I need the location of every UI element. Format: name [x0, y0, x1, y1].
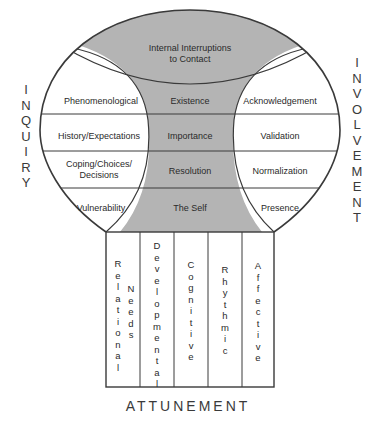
column-rhythmic: Rhythmic — [219, 264, 231, 356]
column-needs: Needs — [125, 283, 137, 341]
rhythmic-letter: R — [222, 264, 229, 276]
developmental-letter: e — [154, 332, 159, 344]
developmental-letter: p — [154, 309, 159, 321]
shaded-center-region — [60, 0, 320, 232]
developmental-letter: e — [154, 275, 159, 287]
affective-letter: e — [255, 295, 260, 307]
involvement-letter: O — [352, 102, 362, 118]
cognitive-letter: C — [188, 259, 195, 271]
rhythmic-letter: c — [223, 345, 228, 357]
relational-letter: l — [117, 362, 119, 374]
rhythmic-letter: m — [221, 322, 229, 334]
developmental-letter: a — [154, 367, 159, 379]
row4-right: Presence — [232, 203, 328, 214]
developmental-letter: n — [154, 344, 159, 356]
relational-letter: a — [115, 293, 120, 305]
column-developmental: Developmental — [151, 240, 163, 390]
row2-left: History/Expectations — [48, 131, 150, 142]
rhythmic-letter: h — [222, 310, 227, 322]
developmental-letter: e — [154, 252, 159, 264]
needs-letter: d — [128, 318, 133, 330]
needs-letter: e — [128, 295, 133, 307]
row3-left: Coping/Choices/ Decisions — [48, 159, 150, 181]
affective-letter: t — [257, 318, 260, 330]
row4-center: The Self — [150, 203, 230, 214]
affective-letter: f — [257, 283, 260, 295]
inquiry-letter: I — [24, 144, 28, 160]
involvement-letter: V — [353, 133, 362, 149]
cognitive-letter: i — [190, 305, 192, 317]
involvement-letter: T — [353, 210, 361, 226]
rhythmic-letter: h — [222, 276, 227, 288]
rhythmic-letter: i — [224, 333, 226, 345]
affective-letter: v — [256, 341, 261, 353]
cognitive-letter: o — [188, 271, 193, 283]
needs-letter: s — [129, 329, 134, 341]
row1-left: Phenomenological — [55, 96, 147, 107]
relational-letter: a — [115, 350, 120, 362]
row2-right: Validation — [232, 131, 328, 142]
column-affective: Affective — [252, 260, 264, 364]
relational-letter: o — [115, 327, 120, 339]
affective-letter: i — [257, 329, 259, 341]
cognitive-letter: g — [188, 282, 193, 294]
involvement-label: INVOLVEMENT — [349, 55, 365, 226]
affective-letter: f — [257, 272, 260, 284]
row2-center: Importance — [150, 131, 230, 142]
row3-left-line1: Coping/Choices/ — [48, 159, 150, 170]
row4-left: Vulnerability — [55, 203, 147, 214]
involvement-letter: N — [352, 195, 361, 211]
top-region-label: Internal Interruptions to Contact — [140, 43, 240, 65]
row1-right: Acknowledgement — [232, 96, 328, 107]
affective-letter: c — [256, 306, 261, 318]
cognitive-letter: t — [190, 317, 193, 329]
cognitive-letter: v — [189, 340, 194, 352]
developmental-letter: l — [156, 286, 158, 298]
involvement-letter: N — [352, 71, 361, 87]
row3-right: Normalization — [232, 166, 328, 177]
involvement-letter: V — [353, 86, 362, 102]
relational-letter: R — [115, 258, 122, 270]
attunement-label: ATTUNEMENT — [0, 398, 376, 414]
relational-letter: t — [117, 304, 120, 316]
involvement-letter: E — [353, 148, 362, 164]
developmental-letter: v — [155, 263, 160, 275]
developmental-letter: l — [156, 378, 158, 390]
relational-letter: i — [117, 316, 119, 328]
cognitive-letter: i — [190, 328, 192, 340]
top-region-line2: to Contact — [140, 54, 240, 65]
top-region-line1: Internal Interruptions — [140, 43, 240, 54]
affective-letter: e — [255, 352, 260, 364]
column-cognitive: Cognitive — [185, 259, 197, 363]
rhythmic-letter: y — [223, 287, 228, 299]
involvement-letter: E — [353, 179, 362, 195]
needs-letter: N — [128, 283, 135, 295]
developmental-letter: D — [154, 240, 161, 252]
inquiry-letter: Y — [22, 175, 31, 191]
cognitive-letter: e — [188, 351, 193, 363]
relational-letter: n — [115, 339, 120, 351]
cognitive-letter: n — [188, 294, 193, 306]
row3-left-line2: Decisions — [48, 170, 150, 181]
involvement-letter: M — [352, 164, 363, 180]
developmental-letter: m — [153, 321, 161, 333]
row1-center: Existence — [150, 96, 230, 107]
developmental-letter: o — [154, 298, 159, 310]
inquiry-label: INQUIRY — [18, 82, 34, 191]
rhythmic-letter: t — [224, 299, 227, 311]
relational-letter: e — [115, 270, 120, 282]
affective-letter: A — [255, 260, 261, 272]
inquiry-letter: Q — [21, 113, 31, 129]
inquiry-letter: N — [21, 98, 30, 114]
column-relational: Relational — [112, 258, 124, 373]
inquiry-letter: I — [24, 82, 28, 98]
relational-letter: l — [117, 281, 119, 293]
needs-letter: e — [128, 306, 133, 318]
row3-center: Resolution — [150, 166, 230, 177]
developmental-letter: t — [156, 355, 159, 367]
involvement-letter: L — [353, 117, 360, 133]
inquiry-letter: U — [21, 129, 30, 145]
inquiry-letter: R — [21, 160, 30, 176]
involvement-letter: I — [355, 55, 359, 71]
